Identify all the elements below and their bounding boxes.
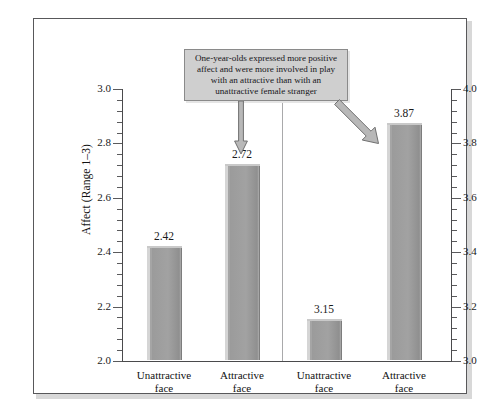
category-label-line: Attractive [197,369,287,382]
left-axis-minor-tick [117,339,122,340]
right-axis-minor-tick [452,176,457,177]
panel-divider [282,103,283,361]
figure-frame: Affect (Range 1–3) Involvement in Play (… [33,18,467,394]
right-axis-minor-tick [452,100,457,101]
right-axis-tick-label: 3.2 [463,301,477,312]
right-axis-tick-label: 3.8 [463,137,477,148]
left-axis-major-tick [113,143,122,144]
right-axis-minor-tick [452,339,457,340]
bar [225,164,260,360]
left-axis-tick-label: 3.0 [97,83,111,94]
left-axis-minor-tick [117,187,122,188]
right-axis-minor-tick [452,111,457,112]
right-axis-minor-tick [452,285,457,286]
left-axis-minor-tick [117,296,122,297]
right-axis-major-tick [452,198,461,199]
right-axis-tick-label: 3.4 [463,246,477,257]
right-axis-minor-tick [452,165,457,166]
right-axis-minor-tick [452,133,457,134]
annotation-arrow-down-icon [230,101,252,157]
right-axis-minor-tick [452,187,457,188]
figure-root: Affect (Range 1–3) Involvement in Play (… [0,0,490,418]
annotation-callout: One-year-olds expressed more positive af… [184,49,348,101]
left-axis-minor-tick [117,154,122,155]
right-axis-line [451,89,452,362]
right-axis-major-tick [452,252,461,253]
left-axis-minor-tick [117,263,122,264]
category-label-line: face [359,382,449,395]
bar-value-label: 2.42 [140,230,188,242]
category-label-line: Unattractive [279,369,369,382]
left-axis-line [122,89,123,362]
right-axis-minor-tick [452,350,457,351]
left-axis-title: Affect (Range 1–3) [80,144,92,235]
right-axis-minor-tick [452,296,457,297]
right-axis-minor-tick [452,274,457,275]
bottom-axis-line [122,361,452,362]
left-axis-tick-label: 2.8 [97,137,111,148]
left-axis-major-tick [113,89,122,90]
left-axis-minor-tick [117,111,122,112]
left-axis-tick-label: 2.2 [97,301,111,312]
right-axis-minor-tick [452,209,457,210]
left-axis-minor-tick [117,317,122,318]
left-axis-minor-tick [117,220,122,221]
bar [307,319,342,360]
left-axis-tick-label: 2.0 [97,355,111,366]
right-axis-minor-tick [452,263,457,264]
left-axis-minor-tick [117,209,122,210]
bar [387,123,422,360]
left-axis-minor-tick [117,122,122,123]
right-axis-minor-tick [452,317,457,318]
left-axis-minor-tick [117,165,122,166]
left-axis-minor-tick [117,230,122,231]
left-axis-minor-tick [117,328,122,329]
annotation-arrow-diagonal-icon [334,97,390,149]
left-axis-tick-label: 2.4 [97,246,111,257]
right-axis-minor-tick [452,154,457,155]
left-axis-tick-label: 2.6 [97,192,111,203]
right-axis-minor-tick [452,122,457,123]
right-axis-minor-tick [452,220,457,221]
left-axis-minor-tick [117,285,122,286]
right-axis-minor-tick [452,230,457,231]
right-axis-major-tick [452,307,461,308]
right-axis-tick-label: 3.6 [463,192,477,203]
left-axis-major-tick [113,307,122,308]
category-label: Attractiveface [197,369,287,395]
category-label-line: face [197,382,287,395]
category-label-line: face [279,382,369,395]
bar [147,246,182,360]
left-axis-minor-tick [117,133,122,134]
right-axis-minor-tick [452,241,457,242]
category-label: Unattractiveface [279,369,369,395]
left-axis-major-tick [113,198,122,199]
left-axis-minor-tick [117,241,122,242]
bar-value-label: 3.15 [300,303,348,315]
right-axis-tick-label: 3.0 [463,355,477,366]
category-label: Unattractiveface [119,369,209,395]
right-axis-major-tick [452,143,461,144]
left-axis-minor-tick [117,176,122,177]
plot-area: 2.02.22.42.62.83.0 3.03.23.43.63.84.0 2.… [122,89,452,361]
right-axis-tick-label: 4.0 [463,83,477,94]
left-axis-minor-tick [117,100,122,101]
right-axis-minor-tick [452,328,457,329]
left-axis-minor-tick [117,350,122,351]
left-axis-minor-tick [117,274,122,275]
category-label: Attractiveface [359,369,449,395]
left-axis-major-tick [113,361,122,362]
category-label-line: Attractive [359,369,449,382]
category-label-line: Unattractive [119,369,209,382]
right-axis-major-tick [452,361,461,362]
right-axis-major-tick [452,89,461,90]
annotation-text: One-year-olds expressed more positive af… [185,53,347,98]
left-axis-major-tick [113,252,122,253]
category-label-line: face [119,382,209,395]
